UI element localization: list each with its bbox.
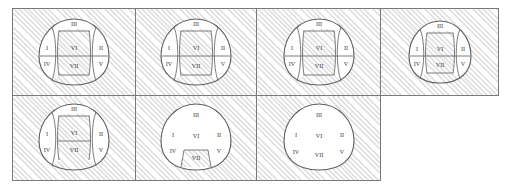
numeral-II: II bbox=[340, 131, 344, 138]
numeral-VI: VI bbox=[193, 132, 200, 139]
numeral-V: V bbox=[340, 148, 345, 155]
numeral-IV: IV bbox=[170, 147, 177, 154]
panel-cell-2: III I II IV V VI VII bbox=[136, 9, 257, 96]
numeral-I: I bbox=[46, 44, 48, 51]
divider-center-left bbox=[58, 31, 60, 75]
region-fill-right-lobe bbox=[453, 29, 471, 79]
numeral-IV: IV bbox=[414, 60, 421, 67]
divider-center-right bbox=[89, 31, 91, 75]
grid-row-2: III I II IV V VI VII bbox=[13, 96, 499, 181]
numeral-III: III bbox=[193, 111, 199, 118]
numeral-III: III bbox=[193, 20, 199, 27]
diagram-panel-3: III I II IV V VI VII bbox=[257, 9, 380, 95]
divider-center-left bbox=[180, 31, 182, 75]
numeral-III: III bbox=[316, 111, 322, 118]
numeral-IV: IV bbox=[44, 146, 51, 153]
divider-center-left bbox=[426, 33, 428, 73]
diagram-panel-1: III I II IV V VI VII bbox=[13, 9, 135, 95]
diagram-panel-4: III I II IV V VI VII bbox=[381, 9, 498, 95]
numeral-II: II bbox=[221, 44, 225, 51]
numeral-VII: VII bbox=[436, 61, 445, 68]
numeral-II: II bbox=[344, 44, 348, 51]
numeral-VII: VII bbox=[192, 154, 201, 161]
numeral-V: V bbox=[461, 60, 466, 67]
divider-center-right bbox=[211, 31, 213, 75]
panel-cell-3: III I II IV V VI VII bbox=[257, 9, 381, 96]
numeral-VI: VI bbox=[437, 45, 444, 52]
numeral-V: V bbox=[344, 60, 349, 67]
numeral-VII: VII bbox=[70, 62, 79, 69]
panel-cell-empty bbox=[381, 96, 499, 181]
numeral-VII: VII bbox=[315, 62, 324, 69]
divider-center-right bbox=[334, 31, 336, 75]
numeral-I: I bbox=[291, 44, 293, 51]
divider-center-left bbox=[58, 116, 60, 160]
numeral-III: III bbox=[437, 22, 443, 29]
numeral-VI: VI bbox=[316, 44, 323, 51]
diagram-panel-6: III I II IV V VI VII bbox=[136, 96, 256, 180]
numeral-II: II bbox=[99, 130, 103, 137]
panel-cell-1: III I II IV V VI VII bbox=[13, 9, 136, 96]
numeral-III: III bbox=[71, 20, 77, 27]
panel-grid: III I II IV V VI VII bbox=[12, 8, 499, 181]
divider-center-left bbox=[303, 31, 305, 75]
numeral-I: I bbox=[295, 131, 297, 138]
numeral-I: I bbox=[46, 130, 48, 137]
numeral-IV: IV bbox=[293, 148, 300, 155]
numeral-III: III bbox=[316, 20, 322, 27]
numeral-I: I bbox=[168, 44, 170, 51]
numeral-IV: IV bbox=[289, 60, 296, 67]
numeral-II: II bbox=[461, 45, 465, 52]
numeral-VI: VI bbox=[71, 129, 78, 136]
numeral-VI: VI bbox=[316, 132, 323, 139]
numeral-I: I bbox=[416, 45, 418, 52]
numeral-V: V bbox=[217, 147, 222, 154]
numeral-V: V bbox=[221, 60, 226, 67]
numeral-III: III bbox=[71, 105, 77, 112]
numeral-IV: IV bbox=[44, 60, 51, 67]
region-fill-left-lobe bbox=[409, 29, 427, 79]
numeral-VI: VI bbox=[71, 44, 78, 51]
numeral-VII: VII bbox=[315, 151, 324, 158]
diagram-panel-2: III I II IV V VI VII bbox=[136, 9, 256, 95]
figure-root: III I II IV V VI VII bbox=[0, 0, 518, 194]
diagram-panel-5: III I II IV V VI VII bbox=[13, 96, 135, 180]
diagram-panel-7: III I II IV V VI VII bbox=[257, 96, 380, 180]
numeral-II: II bbox=[99, 44, 103, 51]
numeral-IV: IV bbox=[166, 60, 173, 67]
numeral-VI: VI bbox=[193, 44, 200, 51]
divider-center-right bbox=[89, 116, 91, 160]
numeral-I: I bbox=[172, 131, 174, 138]
numeral-V: V bbox=[99, 146, 104, 153]
numeral-VII: VII bbox=[192, 62, 201, 69]
numeral-VII: VII bbox=[70, 146, 79, 153]
panel-cell-7: III I II IV V VI VII bbox=[257, 96, 381, 181]
numeral-II: II bbox=[217, 131, 221, 138]
panel-cell-4: III I II IV V VI VII bbox=[381, 9, 499, 96]
panel-cell-6: III I II IV V VI VII bbox=[136, 96, 257, 181]
grid-row-1: III I II IV V VI VII bbox=[13, 9, 499, 96]
numeral-V: V bbox=[99, 60, 104, 67]
divider-center-right bbox=[453, 33, 455, 73]
panel-cell-5: III I II IV V VI VII bbox=[13, 96, 136, 181]
